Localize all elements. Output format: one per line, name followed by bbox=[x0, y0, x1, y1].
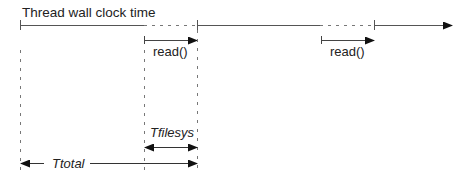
timeline-diagram bbox=[0, 0, 457, 173]
ttotal-label: Ttotal bbox=[52, 157, 85, 170]
read-call-label-2: read() bbox=[330, 45, 365, 58]
tfilesys-label: Tfilesys bbox=[150, 126, 194, 139]
thread-timeline bbox=[20, 20, 452, 30]
read-call-label-1: read() bbox=[153, 45, 188, 58]
